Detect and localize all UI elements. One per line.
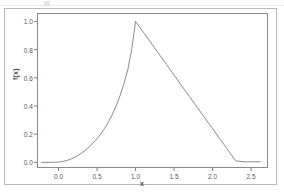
x-tick-label: 0.5 bbox=[92, 173, 101, 180]
y-tick-label: 0.4 bbox=[14, 103, 33, 110]
x-tick-label: 0.0 bbox=[54, 173, 63, 180]
y-tick-label: 1.0 bbox=[14, 18, 33, 25]
density-curve-line bbox=[42, 21, 261, 162]
y-tick-label: 0.0 bbox=[14, 159, 33, 166]
x-axis-title: x bbox=[0, 180, 284, 187]
plot-svg bbox=[0, 0, 284, 196]
y-axis-title: f(x) bbox=[12, 68, 19, 80]
x-tick-label: 2.0 bbox=[208, 173, 217, 180]
figure-container: 0.00.20.40.60.81.0 0.00.51.01.52.02.5 f(… bbox=[0, 0, 284, 196]
x-tick-label: 2.5 bbox=[246, 173, 255, 180]
y-tick-marks bbox=[34, 21, 37, 162]
x-tick-label: 1.5 bbox=[169, 173, 178, 180]
x-tick-marks bbox=[59, 168, 252, 171]
y-tick-label: 0.2 bbox=[14, 131, 33, 138]
x-tick-label: 1.0 bbox=[131, 173, 140, 180]
y-tick-label: 0.8 bbox=[14, 46, 33, 53]
